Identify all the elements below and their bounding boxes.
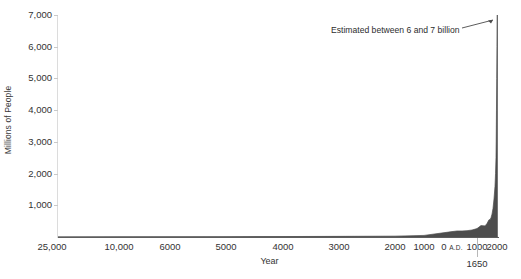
x-axis-tick-label: 25,000 <box>37 241 66 253</box>
x-axis-tick-label: 2000 <box>384 241 405 253</box>
marker-1650-tick <box>477 238 478 257</box>
peak-annotation-label: Estimated between 6 and 7 billion <box>331 25 460 36</box>
y-axis-tick-label: 5,000 <box>6 73 52 83</box>
x-axis-tick-label: 6000 <box>159 241 180 253</box>
y-axis-tick-mark <box>54 142 58 143</box>
x-axis-tick-label: 10,000 <box>104 241 133 253</box>
plot-area <box>58 15 498 237</box>
x-axis-tick-label: 3000 <box>328 241 349 253</box>
x-axis-tick-label: 4000 <box>272 241 293 253</box>
y-axis-tick-labels: 1,0002,0003,0004,0005,0006,0007,000 <box>0 0 52 279</box>
x-axis-tick-label: 2000 <box>486 241 507 253</box>
x-axis-tick-label: 1000 <box>413 241 434 253</box>
y-axis-tick-mark <box>54 15 58 16</box>
y-axis-tick-mark <box>54 110 58 111</box>
x-axis-title-text: Year <box>260 256 278 266</box>
y-axis-tick-mark <box>54 205 58 206</box>
x-axis-tick-label: 0 A.D. <box>441 241 462 254</box>
marker-1650-label: 1650 <box>466 258 487 270</box>
x-axis-tick-label: 5000 <box>215 241 236 253</box>
x-axis-line <box>58 237 499 238</box>
y-axis-tick-label: 6,000 <box>6 42 52 52</box>
x-axis-title: Year <box>0 256 521 266</box>
y-axis-tick-mark <box>54 47 58 48</box>
y-axis-tick-label: 3,000 <box>6 137 52 147</box>
y-axis-tick-label: 4,000 <box>6 105 52 115</box>
y-axis-tick-mark <box>54 78 58 79</box>
y-axis-tick-label: 1,000 <box>6 200 52 210</box>
peak-annotation-leader-line <box>462 18 498 32</box>
area-fill-path <box>58 15 497 237</box>
y-axis-tick-label: 2,000 <box>6 169 52 179</box>
y-axis-tick-mark <box>54 174 58 175</box>
world-population-chart: Millions of People 1,0002,0003,0004,0005… <box>0 0 521 279</box>
y-axis-tick-label: 7,000 <box>6 10 52 20</box>
population-area-series <box>58 15 498 237</box>
x-axis-tick-labels: 25,00010,0006000500040003000200010000 A.… <box>0 241 521 257</box>
